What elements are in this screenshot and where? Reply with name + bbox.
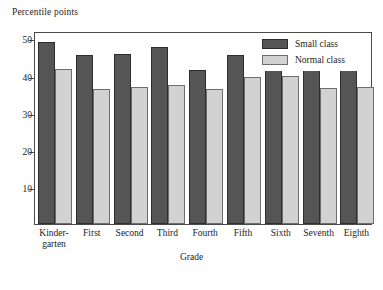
y-tick-label: 20 (23, 147, 33, 157)
bar-normal-class-1 (93, 89, 110, 224)
bar-normal-class-4 (206, 89, 223, 224)
bar-small-class-5 (227, 55, 244, 224)
bar-small-class-7 (303, 70, 320, 224)
bar-normal-class-3 (168, 85, 185, 224)
bar-normal-class-2 (131, 87, 148, 224)
bar-small-class-8 (340, 70, 357, 224)
y-tick-label: 40 (23, 73, 33, 83)
bar-normal-class-5 (244, 77, 261, 224)
y-tick-label: 30 (23, 110, 33, 120)
x-tick-label-line: garten (24, 239, 84, 250)
bar-normal-class-0 (55, 69, 72, 224)
legend-swatch-icon (262, 55, 288, 65)
legend-item-normal-class: Normal class (262, 53, 365, 67)
bar-chart: Percentile points 1020304050 Grade Small… (0, 0, 383, 290)
y-tick-label: 50 (23, 35, 33, 45)
bar-normal-class-7 (320, 88, 337, 224)
bar-small-class-6 (265, 57, 282, 224)
chart-legend: Small classNormal class (257, 33, 370, 71)
legend-item-small-class: Small class (262, 37, 365, 51)
bar-small-class-1 (76, 55, 93, 224)
x-tick-label-8: Eighth (326, 228, 383, 239)
bar-small-class-4 (189, 70, 206, 224)
legend-label: Normal class (295, 55, 345, 65)
bar-small-class-3 (151, 47, 168, 224)
bar-small-class-0 (38, 42, 55, 224)
legend-label: Small class (295, 39, 338, 49)
y-axis-title: Percentile points (12, 7, 78, 17)
bar-normal-class-6 (282, 76, 299, 224)
y-tick-label: 10 (23, 184, 33, 194)
x-tick-label-line: Eighth (326, 228, 383, 239)
legend-swatch-icon (262, 39, 288, 49)
bar-normal-class-8 (357, 87, 374, 224)
x-axis-title: Grade (0, 252, 383, 262)
bar-small-class-2 (114, 54, 131, 224)
